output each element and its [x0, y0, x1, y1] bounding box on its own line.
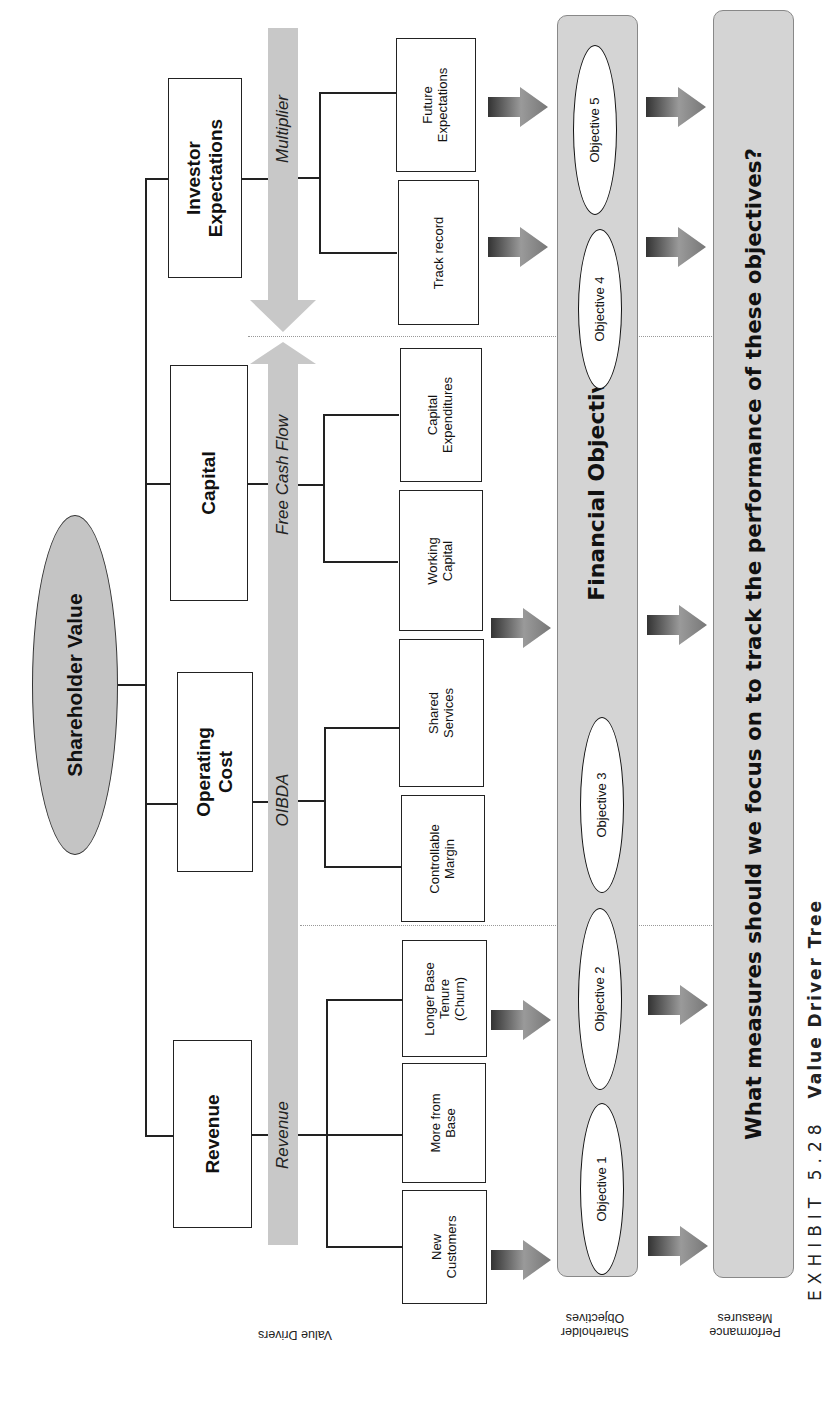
label-line: Longer Base	[422, 962, 437, 1036]
node-label: Working Capital	[426, 537, 456, 584]
separator-dotted	[248, 336, 714, 337]
connector-l2	[298, 800, 325, 802]
row-label-shareholder-objectives: Shareholder Objectives	[540, 1300, 650, 1350]
revenue-flow-label: Revenue	[273, 1101, 293, 1169]
label-line: Tenure	[437, 962, 452, 1036]
arrow-right-icon	[488, 87, 548, 127]
objective-4: Objective 4	[578, 229, 622, 389]
exhibit-title: Value Driver Tree	[805, 899, 825, 1098]
exhibit-caption: EXHIBIT 5.28Value Driver Tree	[800, 820, 831, 1380]
node-label: Shared Services	[427, 688, 457, 738]
row-label-performance-measures: Performance Measures	[690, 1300, 800, 1350]
arrow-right-icon	[646, 87, 706, 127]
label-line: Track record	[431, 216, 446, 288]
oibda-label-holder: OIBDA	[268, 750, 298, 850]
label-line: Cost	[215, 727, 237, 817]
node-operating-cost: Operating Cost	[177, 672, 253, 872]
connector-l2	[298, 484, 324, 486]
label-line: Expenditures	[441, 377, 456, 453]
node-controllable-margin: Controllable Margin	[401, 795, 485, 922]
connector-root	[118, 684, 146, 686]
node-label: Revenue	[202, 1094, 224, 1173]
node-working-capital: Working Capital	[399, 490, 483, 631]
node-revenue: Revenue	[173, 1040, 252, 1228]
label-line: Investor	[183, 119, 205, 237]
label-line: Capital	[198, 451, 220, 514]
objective-5: Objective 5	[573, 45, 617, 215]
exhibit-number: EXHIBIT 5.28	[805, 1118, 825, 1301]
performance-measures-band: What measures should we focus on to trac…	[713, 10, 794, 1278]
label-line: Services	[442, 688, 457, 738]
arrow-right-icon	[488, 227, 548, 267]
label-line: Operating	[193, 727, 215, 817]
row-label-line: Performance	[709, 1325, 781, 1339]
objective-label: Objective 4	[593, 276, 608, 341]
row-label-text: Shareholder Objectives	[561, 1311, 629, 1340]
label-line: Customers	[445, 1216, 460, 1279]
node-label: New Customers	[430, 1216, 460, 1279]
connector-capital	[145, 483, 173, 485]
connector-l2	[323, 414, 325, 562]
label-line: Expectations	[205, 119, 227, 237]
connector-revenue	[145, 1135, 173, 1137]
free-cash-flow-label: Free Cash Flow	[273, 415, 293, 535]
node-label: Track record	[431, 216, 446, 288]
spine-line	[145, 178, 147, 1136]
node-capital: Capital	[170, 365, 248, 601]
node-label: Future Expectations	[421, 68, 451, 142]
label-line: Working	[426, 537, 441, 584]
node-label: Capital	[198, 451, 220, 514]
label-line: Base	[444, 1093, 459, 1152]
node-label: Operating Cost	[193, 727, 237, 817]
connector-l2	[324, 727, 326, 867]
objective-label: Objective 2	[593, 966, 608, 1031]
connector-l2	[323, 561, 398, 563]
connector-l2	[326, 1246, 402, 1248]
arrow-right-icon	[491, 1000, 551, 1040]
measures-question: What measures should we focus on to trac…	[741, 148, 766, 1140]
objective-2: Objective 2	[578, 908, 622, 1090]
objective-3: Objective 3	[580, 717, 624, 893]
separator-dotted	[300, 925, 714, 926]
label-line: Controllable	[428, 824, 443, 893]
arrow-right-icon	[648, 985, 708, 1025]
caption-text: EXHIBIT 5.28Value Driver Tree	[806, 899, 826, 1301]
label-line: Shared	[427, 688, 442, 738]
node-investor-expectations: Investor Expectations	[168, 78, 242, 278]
arrow-right-icon	[491, 608, 551, 648]
connector-l2	[298, 1134, 328, 1136]
connector-operating	[145, 803, 178, 805]
row-label-line: Measures	[709, 1311, 781, 1325]
root-node-shareholder-value: Shareholder Value	[32, 515, 118, 855]
connector-l2	[319, 252, 397, 254]
objective-label: Objective 1	[595, 1156, 610, 1221]
root-node-label: Shareholder Value	[63, 593, 87, 776]
node-more-from-base: More from Base	[402, 1063, 486, 1183]
arrow-right-icon	[646, 227, 706, 267]
arrow-right-icon	[647, 605, 707, 645]
objective-1: Objective 1	[580, 1103, 624, 1275]
connector-l2	[319, 92, 397, 94]
label-line: Revenue	[202, 1094, 224, 1173]
label-line: New	[430, 1216, 445, 1279]
oibda-label: OIBDA	[273, 774, 293, 827]
connector-l2	[324, 866, 401, 868]
label-line: Future	[421, 68, 436, 142]
node-shared-services: Shared Services	[399, 639, 484, 787]
node-label: More from Base	[429, 1093, 459, 1152]
node-label: Capital Expenditures	[426, 377, 456, 453]
arrow-right-icon	[491, 1240, 551, 1280]
connector-l2	[319, 92, 321, 253]
row-label-line: Objectives	[561, 1311, 629, 1325]
multiplier-label: Multiplier	[273, 95, 293, 163]
objective-label: Objective 3	[595, 772, 610, 837]
connector-l2	[323, 414, 399, 416]
label-line: Capital	[441, 537, 456, 584]
objective-label: Objective 5	[588, 97, 603, 162]
label-line: Margin	[443, 824, 458, 893]
node-label: Longer Base Tenure (Churn)	[422, 962, 467, 1036]
node-label: Controllable Margin	[428, 824, 458, 893]
arrow-right-icon	[648, 1226, 708, 1266]
label-line: More from	[429, 1093, 444, 1152]
label-line: Capital	[426, 377, 441, 453]
